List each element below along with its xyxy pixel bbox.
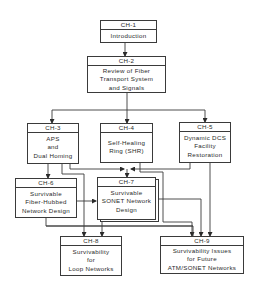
node-ch9-line: ATM/SONET Networks bbox=[161, 264, 243, 272]
node-ch9-line: Survivability Issues bbox=[161, 247, 243, 255]
node-ch6-header: CH-6 bbox=[16, 179, 76, 188]
node-ch3-header: CH-3 bbox=[28, 124, 78, 133]
node-ch8-line: Loop Networks bbox=[61, 265, 121, 273]
node-ch2-line: and Signals bbox=[88, 84, 165, 92]
node-ch8-line: for bbox=[61, 256, 121, 264]
node-ch6-line: Survivable bbox=[16, 190, 76, 198]
node-ch5-header: CH-5 bbox=[180, 123, 230, 132]
node-ch2-header: CH-2 bbox=[88, 57, 165, 66]
node-ch5-line: Restoration bbox=[180, 151, 230, 159]
node-ch8-header: CH-8 bbox=[61, 237, 121, 246]
node-ch7-line: SONET Network bbox=[98, 197, 155, 205]
node-ch6-line: Network Design bbox=[16, 207, 76, 215]
node-ch1-line: Introduction bbox=[101, 32, 156, 40]
node-ch5-line: Dynamic DCS bbox=[180, 134, 230, 142]
node-ch3-line: APS bbox=[28, 135, 78, 143]
node-ch3-line: Dual Homing bbox=[28, 152, 78, 160]
node-ch8-line: Survivability bbox=[61, 248, 121, 256]
node-ch9-line: for Future bbox=[161, 255, 243, 263]
node-ch4-header: CH-4 bbox=[101, 124, 152, 133]
node-ch2: CH-2 Review of Fiber Transport System an… bbox=[87, 56, 166, 93]
node-ch5-line: Facility bbox=[180, 142, 230, 150]
node-ch3-line: and bbox=[28, 143, 78, 151]
node-ch7: CH-7 Survivable SONET Network Design bbox=[97, 177, 156, 220]
node-ch9-header: CH-9 bbox=[161, 237, 243, 246]
node-ch4-line: Self-Healing bbox=[101, 139, 152, 147]
node-ch4-line: Ring (SHR) bbox=[101, 147, 152, 155]
node-ch3: CH-3 APS and Dual Homing bbox=[27, 123, 79, 164]
node-ch6: CH-6 Survivable Fiber-Hubbed Network Des… bbox=[15, 178, 77, 218]
node-ch6-line: Fiber-Hubbed bbox=[16, 198, 76, 206]
node-ch7-header: CH-7 bbox=[98, 178, 155, 187]
node-ch7-line: Survivable bbox=[98, 189, 155, 197]
node-ch2-line: Review of Fiber bbox=[88, 67, 165, 75]
node-ch4: CH-4 Self-Healing Ring (SHR) bbox=[100, 123, 153, 163]
node-ch1-header: CH-1 bbox=[101, 21, 156, 30]
node-ch8: CH-8 Survivability for Loop Networks bbox=[60, 236, 122, 276]
node-ch2-line: Transport System bbox=[88, 75, 165, 83]
node-ch9: CH-9 Survivability Issues for Future ATM… bbox=[160, 236, 244, 274]
node-ch5: CH-5 Dynamic DCS Facility Restoration bbox=[179, 122, 231, 163]
node-ch7-line: Design bbox=[98, 206, 155, 214]
node-ch1: CH-1 Introduction bbox=[100, 20, 157, 43]
